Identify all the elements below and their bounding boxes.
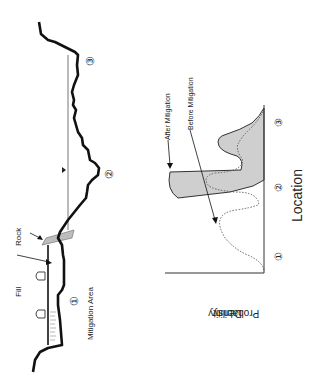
tick-label-3: ③ bbox=[273, 118, 284, 127]
after-mitigation-area bbox=[169, 108, 264, 198]
mitigation-area-label: Mitigation Area bbox=[86, 287, 95, 340]
cross-section: Rock Fill Mitigation Area ① ② ③ bbox=[14, 22, 115, 372]
marker-2: ② bbox=[103, 169, 115, 179]
mitigation-diagram: Rock Fill Mitigation Area ① ② ③ After Mi… bbox=[0, 0, 313, 382]
rock-label: Rock bbox=[14, 227, 23, 246]
probability-chart: After Mitigation Before Mitigation ① ② ③… bbox=[164, 77, 305, 319]
before-mitigation-label: Before Mitigation bbox=[187, 77, 195, 130]
after-mitigation-label: After Mitigation bbox=[164, 93, 172, 140]
after-mitigation-arrow bbox=[167, 140, 173, 169]
x-axis-title: Location bbox=[289, 169, 305, 222]
fill-arrow bbox=[17, 255, 52, 265]
fill-label: Fill bbox=[14, 287, 23, 297]
house-icon bbox=[36, 272, 45, 280]
marker-3: ③ bbox=[84, 56, 96, 66]
marker-1: ① bbox=[68, 296, 80, 306]
water-level-marker-icon bbox=[62, 167, 66, 173]
rock-arrow bbox=[30, 233, 43, 240]
tick-label-1: ① bbox=[273, 252, 284, 261]
fill-texture bbox=[50, 312, 56, 340]
tick-label-2: ② bbox=[273, 183, 284, 192]
house-icon bbox=[36, 310, 45, 318]
y-axis-title-line2: Density bbox=[208, 308, 241, 319]
